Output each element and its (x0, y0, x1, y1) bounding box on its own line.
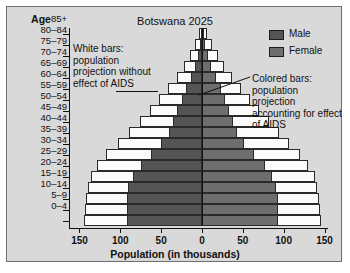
x-axis-tick-label: 150 (305, 235, 345, 246)
x-axis-spine (69, 228, 328, 229)
y-axis-tick (63, 221, 70, 222)
bar-female (202, 72, 216, 83)
pyramid-row (70, 171, 327, 182)
bar-male (151, 149, 202, 160)
bar-female (202, 138, 244, 149)
bar-female (202, 149, 254, 160)
bar-female (202, 215, 278, 226)
bar-female (202, 171, 272, 182)
x-axis-tick-label: 50 (223, 235, 263, 246)
bar-male (133, 171, 202, 182)
y-axis-tick (63, 188, 70, 189)
legend-swatch-male (269, 30, 284, 40)
age-group-label: 0–4 (15, 201, 67, 211)
pyramid-row (70, 193, 327, 204)
bar-male (173, 116, 202, 127)
pyramid-row (70, 204, 327, 215)
age-group-label: 85+ (15, 14, 67, 24)
y-axis-tick (63, 177, 70, 178)
annotation-colored-bars: Colored bars: population projection acco… (252, 73, 344, 131)
legend-label-female: Female (289, 45, 322, 56)
bar-male (127, 193, 202, 204)
bar-female (202, 116, 233, 127)
bar-male (195, 61, 202, 72)
y-axis-tick (63, 199, 70, 200)
y-axis-tick (63, 144, 70, 145)
pyramid-row (70, 138, 327, 149)
x-axis-tick-label: 50 (141, 235, 181, 246)
pyramid-row (70, 149, 327, 160)
y-axis-tick (63, 89, 70, 90)
x-axis-tick-label: 0 (182, 235, 222, 246)
bar-female (202, 83, 221, 94)
bar-female (202, 204, 278, 215)
age-group-label: 50–54 (15, 91, 67, 101)
y-axis-tick (63, 166, 70, 167)
age-group-label: 35–39 (15, 124, 67, 134)
y-axis-tick (63, 56, 70, 57)
bar-female (202, 105, 229, 116)
age-group-label: 45–49 (15, 102, 67, 112)
bar-male (191, 72, 202, 83)
pyramid-row (70, 182, 327, 193)
x-axis-tick-label: 100 (100, 235, 140, 246)
bar-female (202, 127, 237, 138)
age-group-label: 55–59 (15, 80, 67, 90)
legend-swatch-female (269, 47, 284, 57)
age-axis: Age 85+80–8475–7970–7465–6960–6455–5950–… (15, 13, 67, 227)
population-pyramid-figure: Botswana 2025 Age 85+80–8475–7970–7465–6… (6, 6, 342, 262)
x-axis-tick (120, 228, 121, 233)
bar-male (177, 105, 202, 116)
y-axis-tick (63, 155, 70, 156)
x-axis-tick (243, 228, 244, 233)
annotation-white-bars: White bars: population projection withou… (73, 43, 159, 89)
bar-male (182, 94, 202, 105)
bar-female (202, 61, 211, 72)
age-group-label: 75–79 (15, 36, 67, 46)
x-axis-tick (325, 228, 326, 233)
bar-female (202, 182, 276, 193)
pyramid-row (70, 160, 327, 171)
bar-male (128, 182, 202, 193)
age-group-label: 70–74 (15, 47, 67, 57)
bar-male (127, 204, 202, 215)
bar-male (169, 127, 202, 138)
x-axis-tick (284, 228, 285, 233)
y-axis-tick (63, 111, 70, 112)
bar-female (202, 94, 225, 105)
y-axis-tick (63, 122, 70, 123)
age-group-label: 20–24 (15, 157, 67, 167)
age-group-label: 60–64 (15, 69, 67, 79)
age-group-label: 40–44 (15, 113, 67, 123)
x-axis-tick (79, 228, 80, 233)
y-axis-tick (63, 45, 70, 46)
y-axis-tick (63, 210, 70, 211)
annotation-leader-line-left (116, 91, 158, 92)
zero-axis-line (202, 28, 203, 226)
age-group-label: 5–9 (15, 190, 67, 200)
x-axis-title: Population (in thousands) (7, 248, 343, 260)
age-group-label: 10–14 (15, 179, 67, 189)
x-axis-tick (202, 228, 203, 233)
age-group-label: 15–19 (15, 168, 67, 178)
age-group-label: 65–69 (15, 58, 67, 68)
pyramid-row (70, 215, 327, 226)
x-axis-tick-label: 100 (264, 235, 304, 246)
x-axis-tick (161, 228, 162, 233)
legend-label-male: Male (289, 28, 311, 39)
x-axis-tick-label: 150 (59, 235, 99, 246)
bar-female (202, 160, 265, 171)
y-axis-tick (63, 67, 70, 68)
age-group-label: 30–34 (15, 135, 67, 145)
y-axis-tick (63, 133, 70, 134)
bar-male (127, 215, 202, 226)
age-group-label: 25–29 (15, 146, 67, 156)
y-axis-tick (63, 100, 70, 101)
bar-male (141, 160, 202, 171)
y-axis-tick (63, 78, 70, 79)
age-group-label: 80–84 (15, 25, 67, 35)
bar-female (202, 193, 278, 204)
bar-male (161, 138, 202, 149)
y-axis-tick (63, 34, 70, 35)
bar-male (186, 83, 202, 94)
